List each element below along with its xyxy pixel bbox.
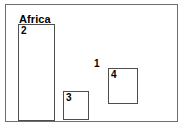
region-2[interactable]: 2 xyxy=(18,24,55,121)
diagram-canvas: Africa 1 2 3 4 xyxy=(0,0,186,134)
region-label-1: 1 xyxy=(94,59,100,69)
region-4[interactable]: 4 xyxy=(108,68,138,104)
region-3[interactable]: 3 xyxy=(63,91,89,120)
region-label-3: 3 xyxy=(66,93,72,103)
region-label-2: 2 xyxy=(21,26,27,36)
outer-region-frame[interactable]: Africa 1 2 3 4 xyxy=(5,4,178,122)
region-label-4: 4 xyxy=(111,70,117,80)
